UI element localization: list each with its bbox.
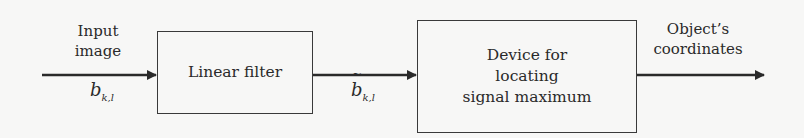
filtered-symbol-sub: k,l <box>363 92 375 103</box>
output-label-line1: Object’s <box>638 19 758 39</box>
output-label: Object’s coordinates <box>638 19 758 59</box>
input-label-line2: image <box>58 41 138 61</box>
input-symbol: bk,l <box>90 79 114 103</box>
filtered-symbol: bk,l <box>351 79 375 103</box>
output-label-line2: coordinates <box>638 39 758 59</box>
max-locator-label-line2: locating <box>463 66 592 87</box>
linear-filter-label: Linear filter <box>188 62 282 83</box>
linear-filter-block: Linear filter <box>157 31 313 114</box>
max-locator-label-line3: signal maximum <box>463 87 592 108</box>
input-label: Input image <box>58 21 138 61</box>
max-locator-label-line1: Device for <box>463 45 592 66</box>
input-symbol-base: b <box>90 79 102 100</box>
filtered-symbol-base: b <box>351 79 363 100</box>
input-symbol-sub: k,l <box>102 92 114 103</box>
input-label-line1: Input <box>58 21 138 41</box>
max-locator-block: Device for locating signal maximum <box>417 20 637 133</box>
